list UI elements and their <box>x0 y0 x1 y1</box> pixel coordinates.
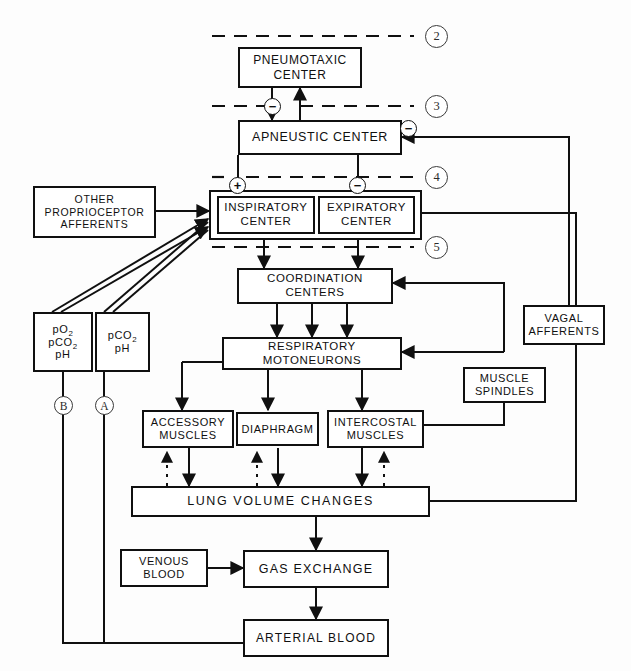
pneumotaxic-label-2: CENTER <box>253 68 347 82</box>
node-expiratory-center[interactable]: EXPIRATORY CENTER <box>318 196 415 234</box>
proprioceptor-label-2: PROPRIOCEPTOR <box>45 206 145 218</box>
sign-minus-vagal-label: − <box>405 122 413 135</box>
edge-chemo-b-to-inspiratory-2 <box>61 227 208 312</box>
venous-label-2: BLOOD <box>139 568 189 581</box>
inspiratory-label-1: INSPIRATORY <box>224 201 307 215</box>
motoneurons-label-1: RESPIRATORY <box>263 340 361 354</box>
apneustic-label: APNEUSTIC CENTER <box>240 130 400 145</box>
vagal-label-2: AFFERENTS <box>529 325 600 338</box>
node-other-proprioceptor-afferents[interactable]: OTHER PROPRIOCEPTOR AFFERENTS <box>33 186 156 238</box>
level-marker-5-label: 5 <box>433 240 439 255</box>
level-marker-3-label: 3 <box>433 99 439 114</box>
expiratory-label-2: CENTER <box>327 215 406 229</box>
node-pneumotaxic-center[interactable]: PNEUMOTAXIC CENTER <box>238 47 362 88</box>
node-inspiratory-center[interactable]: INSPIRATORY CENTER <box>217 196 315 234</box>
edge-vagal-to-expiratory <box>400 213 576 305</box>
level-marker-2-label: 2 <box>433 29 439 44</box>
path-marker-a: A <box>95 396 114 415</box>
respiratory-control-diagram: PNEUMOTAXIC CENTER APNEUSTIC CENTER INSP… <box>0 0 631 671</box>
sign-minus-pneumotaxic-apneustic: − <box>264 98 281 115</box>
chemo-b-label-2: pCO2 <box>48 336 77 349</box>
chemo-b-label-1: pO2 <box>48 323 77 336</box>
gas-exchange-label: GAS EXCHANGE <box>245 562 387 577</box>
path-marker-b-label: B <box>60 400 68 412</box>
coordination-label-2: CENTERS <box>267 286 363 300</box>
pneumotaxic-label-1: PNEUMOTAXIC <box>253 53 347 67</box>
node-coordination-centers[interactable]: COORDINATION CENTERS <box>237 268 393 304</box>
arterial-label: ARTERIAL BLOOD <box>245 631 387 645</box>
sign-minus-vagal-apneustic: − <box>400 120 417 137</box>
motoneurons-label-2: MOTONEURONS <box>263 354 361 368</box>
path-marker-b: B <box>54 396 73 415</box>
sign-plus-inspiratory-label: + <box>234 179 242 192</box>
level-marker-4-label: 4 <box>433 170 439 185</box>
node-diaphragm[interactable]: DIAPHRAGM <box>236 412 319 446</box>
edge-spindles-to-coordination <box>393 283 504 352</box>
sign-minus-expiratory-label: − <box>354 179 362 192</box>
node-intercostal-muscles[interactable]: INTERCOSTAL MUSCLES <box>327 410 424 448</box>
level-marker-5: 5 <box>425 236 448 259</box>
node-chemoreceptor-b[interactable]: pO2 pCO2 pH <box>33 312 93 372</box>
spindles-label-2: SPINDLES <box>475 385 534 398</box>
edge-chemo-a-to-inspiratory-2 <box>113 230 208 312</box>
accessory-label-1: ACCESSORY <box>151 416 225 429</box>
level-marker-3: 3 <box>425 95 448 118</box>
node-apneustic-center[interactable]: APNEUSTIC CENTER <box>238 120 402 155</box>
inspiratory-label-2: CENTER <box>224 215 307 229</box>
intercostal-label-1: INTERCOSTAL <box>334 416 417 429</box>
level-marker-4: 4 <box>425 166 448 189</box>
node-muscle-spindles[interactable]: MUSCLE SPINDLES <box>463 367 546 403</box>
intercostal-label-2: MUSCLES <box>334 429 417 442</box>
node-gas-exchange[interactable]: GAS EXCHANGE <box>243 550 389 588</box>
proprioceptor-label-1: OTHER <box>45 193 145 205</box>
node-respiratory-motoneurons[interactable]: RESPIRATORY MOTONEURONS <box>222 337 402 370</box>
edge-vagal-to-apneustic <box>402 137 569 305</box>
proprioceptor-label-3: AFFERENTS <box>45 218 145 230</box>
node-arterial-blood[interactable]: ARTERIAL BLOOD <box>243 619 389 657</box>
node-accessory-muscles[interactable]: ACCESSORY MUSCLES <box>142 410 234 448</box>
vagal-label-1: VAGAL <box>529 312 600 325</box>
expiratory-label-1: EXPIRATORY <box>327 201 406 215</box>
coordination-label-1: COORDINATION <box>267 272 363 286</box>
node-venous-blood[interactable]: VENOUS BLOOD <box>120 549 208 587</box>
accessory-label-2: MUSCLES <box>151 429 225 442</box>
lung-label: LUNG VOLUME CHANGES <box>133 494 428 509</box>
spindles-label-1: MUSCLE <box>475 372 534 385</box>
chemo-a-label-1: pCO2 <box>108 329 137 342</box>
path-marker-a-label: A <box>100 400 108 412</box>
diaphragm-label: DIAPHRAGM <box>238 423 317 436</box>
node-lung-volume-changes[interactable]: LUNG VOLUME CHANGES <box>131 486 430 517</box>
venous-label-1: VENOUS <box>139 555 189 568</box>
sign-minus-pneumotaxic-label: − <box>269 100 277 113</box>
level-marker-2: 2 <box>425 25 448 48</box>
sign-minus-expiratory: − <box>349 177 366 194</box>
node-vagal-afferents[interactable]: VAGAL AFFERENTS <box>523 305 605 345</box>
node-chemoreceptor-a[interactable]: pCO2 pH <box>95 312 150 372</box>
sign-plus-inspiratory: + <box>229 177 246 194</box>
